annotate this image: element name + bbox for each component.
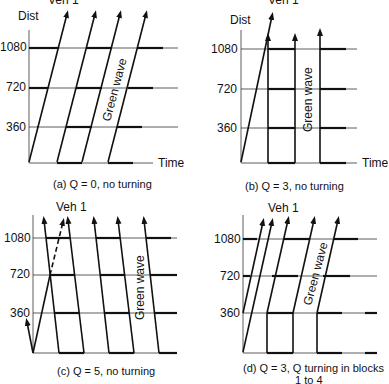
veh1-label-b: Veh 1: [268, 0, 299, 7]
panel-b: Veh 1 Dist Time 1080 720 360 Green wave …: [211, 0, 389, 192]
tick-720-d: 720: [220, 269, 240, 283]
time-label-b: Time: [362, 156, 389, 170]
time-space-figure: Veh 1 Dist Time 1080 720 360 Green wave …: [0, 0, 389, 384]
tick-360-d: 360: [220, 306, 240, 320]
panel-c: Veh 1 1080 720 360 Green wave (c) Q = 5,…: [4, 200, 177, 377]
caption-c: (c) Q = 5, no turning: [57, 365, 155, 377]
veh1-label-d: Veh 1: [268, 201, 299, 215]
tick-720-b: 720: [217, 82, 237, 96]
time-label-a: Time: [158, 156, 185, 170]
caption-d-line2: 1 to 4: [295, 374, 323, 384]
tick-1080-c: 1080: [4, 231, 31, 245]
tick-1080-a: 1080: [0, 40, 27, 54]
veh1-label-a: Veh 1: [48, 0, 79, 7]
green-wave-label-b: Green wave: [301, 67, 315, 132]
veh1-label-c: Veh 1: [56, 200, 87, 214]
caption-a: (a) Q = 0, no turning: [53, 178, 152, 190]
panel-d: Veh 1 1080 720 360 Green wave (d) Q = 3,: [214, 201, 384, 384]
green-wave-label-a: Green wave: [99, 56, 129, 122]
green-wave-label-c: Green wave: [133, 255, 147, 320]
tick-720-c: 720: [10, 267, 30, 281]
tick-360-b: 360: [217, 121, 237, 135]
tick-360-c: 360: [10, 306, 30, 320]
caption-b: (b) Q = 3, no turning: [245, 180, 344, 192]
tick-360-a: 360: [6, 120, 26, 134]
panel-a: Veh 1 Dist Time 1080 720 360 Green wave …: [0, 0, 185, 190]
caption-d-line1: (d) Q = 3, Q turning in blocks: [243, 362, 384, 374]
dist-label-b: Dist: [230, 13, 251, 27]
tick-720-a: 720: [6, 80, 26, 94]
tick-1080-b: 1080: [211, 42, 238, 56]
dist-label-a: Dist: [18, 9, 39, 23]
tick-1080-d: 1080: [214, 232, 241, 246]
